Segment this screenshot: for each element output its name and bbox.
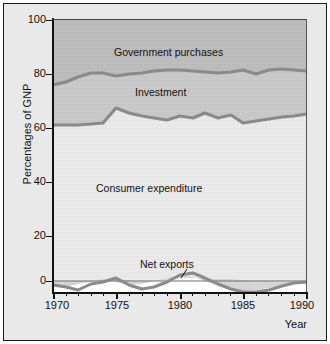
x-tick-label-1970: 1970 (37, 299, 77, 311)
x-tick-1990 (306, 292, 308, 299)
x-tick-label-1975: 1975 (97, 299, 137, 311)
stacked-area-svg (53, 20, 307, 292)
x-tick-1977 (142, 292, 143, 296)
x-tick-label-1990: 1990 (282, 299, 322, 311)
x-tick-1973 (91, 292, 92, 296)
y-tick-100 (46, 20, 53, 21)
x-tick-1974 (103, 292, 104, 296)
x-tick-1970 (53, 292, 55, 299)
x-tick-1971 (66, 292, 67, 296)
y-tick-0 (46, 281, 53, 282)
x-tick-1978 (154, 292, 155, 296)
x-tick-1979 (167, 292, 168, 296)
y-tick-20 (46, 236, 53, 237)
band-label-net-exports: Net exports (140, 258, 194, 270)
x-tick-1981 (192, 292, 193, 296)
area-consumer-expenditure (53, 108, 307, 282)
x-tick-1987 (268, 292, 269, 296)
x-tick-1975 (116, 292, 118, 299)
x-axis-title: Year (255, 318, 307, 330)
chart-figure: 100 80 60 40 20 0 1970 1975 1980 1985 19… (0, 0, 330, 344)
y-tick-label-20: 20 (2, 230, 46, 241)
x-tick-1986 (256, 292, 257, 296)
x-tick-label-1985: 1985 (223, 299, 263, 311)
x-tick-1983 (218, 292, 219, 296)
y-axis-title: Percentages of GNP (21, 59, 33, 209)
y-tick-label-100: 100 (2, 14, 46, 25)
x-tick-1985 (243, 292, 245, 299)
y-tick-60 (46, 128, 53, 129)
y-tick-40 (46, 182, 53, 183)
band-label-investment: Investment (135, 86, 186, 98)
band-label-government-purchases: Government purchases (114, 46, 223, 58)
x-tick-1988 (281, 292, 282, 296)
plot-right-rule (306, 19, 307, 293)
x-tick-1982 (205, 292, 206, 296)
plot-area (53, 20, 307, 292)
y-tick-80 (46, 74, 53, 75)
x-tick-1972 (78, 292, 79, 296)
plot-top-rule (53, 19, 307, 20)
x-tick-1980 (180, 292, 182, 299)
x-tick-1976 (129, 292, 130, 296)
x-tick-1989 (294, 292, 295, 296)
band-label-consumer-expenditure: Consumer expenditure (96, 182, 202, 194)
y-axis-spine (52, 18, 54, 294)
y-tick-label-0: 0 (2, 275, 46, 286)
x-tick-label-1980: 1980 (160, 299, 200, 311)
x-tick-1984 (230, 292, 231, 296)
